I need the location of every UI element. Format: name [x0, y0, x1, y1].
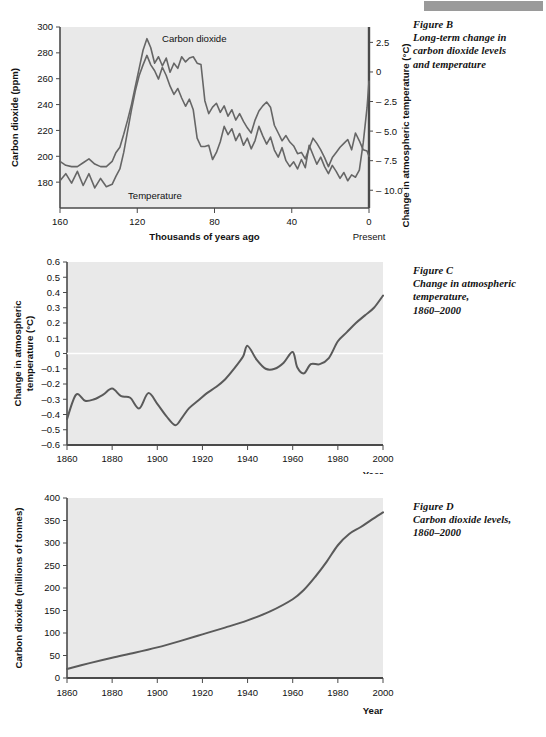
figure-c-y-axis-title: Change in atmospherictemperature (°C) [12, 300, 35, 407]
figure-b-plot-background [60, 27, 369, 208]
figure-b-ytick-right-label: 2.5 [376, 37, 389, 48]
figure-c-y-axis-title-line-2: temperature (°C) [24, 316, 35, 391]
figure-d-ytick-label: 150 [44, 605, 60, 616]
figure-b-label-carbon-dioxide: Carbon dioxide [162, 33, 227, 44]
figure-b-xtick-label: 40 [286, 216, 297, 227]
figure-b-ytick-label: 260 [37, 73, 53, 84]
figure-b-ytick-label: 220 [37, 125, 53, 136]
figure-b-xtick-label: 0 [366, 216, 371, 227]
figure-d-ytick-label: 0 [55, 672, 60, 683]
figure-b-present-label: Present [353, 231, 386, 242]
figure-d-x-axis-title: Year [363, 705, 384, 716]
page-header-bar [424, 1, 543, 11]
figure-d-ytick-label: 200 [44, 582, 60, 593]
figure-c-ytick-label: 0.1 [47, 333, 60, 344]
figure-d-ytick-label: 300 [44, 537, 60, 548]
figure-d-ytick-label: 350 [44, 515, 60, 526]
figure-c-ytick-label: –0.6 [42, 439, 61, 450]
figure-b-xtick-label: 120 [129, 216, 145, 227]
figure-d-plot-background [67, 498, 383, 678]
figure-b-ytick-label: 200 [37, 151, 53, 162]
figure-c-ytick-label: –0.3 [42, 394, 61, 405]
figure-c-caption-line-1: Change in atmospheric [413, 277, 545, 290]
figure-d: 0501001502002503003504001860188019001920… [0, 486, 546, 731]
figure-d-ytick-label: 400 [44, 492, 60, 503]
figure-b-caption-line-2: carbon dioxide levels [413, 44, 545, 57]
figure-c-ytick-label: 0.5 [47, 272, 60, 283]
figure-b-x-axis-title: Thousands of years ago [149, 231, 259, 242]
figure-d-caption-line-2: 1860–2000 [413, 526, 545, 539]
figure-b-caption-line-3: and temperature [413, 58, 545, 71]
figure-d-xtick-label: 1860 [56, 687, 77, 698]
figure-b-caption: Figure B Long-term change in carbon diox… [413, 18, 545, 71]
figure-b: 1802002202402602803002.50– 2.5– 5.0– 7.5… [0, 12, 546, 244]
figure-c-caption-line-2: temperature, [413, 290, 545, 303]
figure-b-ytick-label: 240 [37, 99, 53, 110]
figure-c-xtick-label: 1900 [147, 453, 168, 464]
figure-d-xtick-label: 1920 [192, 687, 213, 698]
figure-d-caption: Figure D Carbon dioxide levels, 1860–200… [413, 500, 545, 540]
figure-c-xtick-label: 1960 [282, 453, 303, 464]
figure-c: 0.60.50.40.30.20.10–0.1–0.2–0.3–0.4–0.5–… [0, 252, 546, 474]
figure-d-ytick-label: 50 [49, 650, 60, 661]
figure-d-xtick-label: 1960 [282, 687, 303, 698]
figure-c-caption-line-3: 1860–2000 [413, 304, 545, 317]
figure-d-xtick-label: 1980 [327, 687, 348, 698]
figure-b-ytick-right-label: 0 [376, 66, 381, 77]
figure-d-caption-title: Figure D [413, 500, 545, 513]
figure-c-xtick-label: 1940 [237, 453, 258, 464]
figure-c-xtick-label: 2000 [372, 453, 393, 464]
figure-b-y-axis-title: Carbon dioxide (ppm) [9, 68, 20, 167]
figure-c-ytick-label: 0.6 [47, 256, 60, 267]
figure-c-ytick-label: 0 [55, 348, 60, 359]
figure-b-label-temperature: Temperature [128, 190, 182, 201]
figure-c-caption: Figure C Change in atmospheric temperatu… [413, 264, 545, 317]
figure-c-ytick-label: 0.3 [47, 302, 60, 313]
figure-c-ytick-label: –0.2 [42, 378, 61, 389]
figure-c-xtick-label: 1860 [56, 453, 77, 464]
figure-b-xtick-label: 80 [209, 216, 220, 227]
figure-d-xtick-label: 1900 [147, 687, 168, 698]
figure-c-x-axis-title: Year [363, 469, 384, 474]
figure-c-ytick-label: 0.4 [47, 287, 60, 298]
figure-b-ytick-right-label: – 5.0 [376, 126, 397, 137]
figure-b-xtick-label: 160 [52, 216, 68, 227]
figure-c-xtick-label: 1980 [327, 453, 348, 464]
figure-b-ytick-label: 300 [37, 21, 53, 32]
figure-d-ytick-label: 250 [44, 560, 60, 571]
figure-d-xtick-label: 2000 [372, 687, 393, 698]
figure-b-caption-line-1: Long-term change in [413, 31, 545, 44]
figure-b-ytick-label: 280 [37, 47, 53, 58]
figure-d-caption-line-1: Carbon dioxide levels, [413, 513, 545, 526]
page-root: 1802002202402602803002.50– 2.5– 5.0– 7.5… [0, 0, 546, 737]
figure-d-ytick-label: 100 [44, 627, 60, 638]
figure-d-xtick-label: 1940 [237, 687, 258, 698]
figure-c-ytick-label: –0.1 [42, 363, 61, 374]
figure-c-ytick-label: –0.5 [42, 424, 61, 435]
figure-b-ytick-right-label: – 10.0 [376, 185, 402, 196]
figure-c-ytick-label: 0.2 [47, 317, 60, 328]
figure-b-caption-title: Figure B [413, 18, 545, 31]
figure-c-xtick-label: 1880 [102, 453, 123, 464]
figure-b-y-axis-right-title: Change in atmospheric temperature (°C) [400, 43, 411, 227]
figure-c-ytick-label: –0.4 [42, 409, 61, 420]
figure-c-xtick-label: 1920 [192, 453, 213, 464]
figure-c-y-axis-title-line-1: Change in atmospheric [12, 300, 23, 407]
figure-c-caption-title: Figure C [413, 264, 545, 277]
figure-b-ytick-right-label: – 7.5 [376, 155, 397, 166]
figure-d-xtick-label: 1880 [102, 687, 123, 698]
figure-b-ytick-right-label: – 2.5 [376, 96, 397, 107]
figure-d-y-axis-title: Carbon dioxide (millions of tonnes) [13, 508, 24, 669]
figure-b-ytick-label: 180 [37, 177, 53, 188]
